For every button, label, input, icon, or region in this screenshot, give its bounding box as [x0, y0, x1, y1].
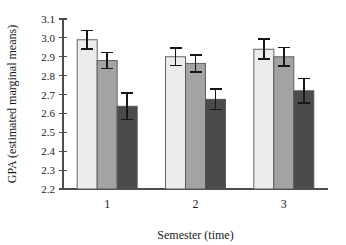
- chart-canvas: 2.22.32.42.52.62.72.82.93.03.1123Semeste…: [0, 0, 346, 245]
- x-tick-label-2: 2: [193, 197, 199, 211]
- y-tick-label-2.6: 2.6: [41, 107, 55, 119]
- x-tick-label-3: 3: [281, 197, 287, 211]
- y-tick-label-3.1: 3.1: [41, 13, 55, 25]
- x-tick-label-1: 1: [104, 197, 110, 211]
- y-tick-label-2.8: 2.8: [41, 70, 55, 82]
- bar-2-series-1: [166, 57, 186, 189]
- bar-chart: 2.22.32.42.52.62.72.82.93.03.1123Semeste…: [0, 0, 346, 245]
- y-tick-label-2.2: 2.2: [41, 183, 55, 195]
- x-axis-title: Semester (time): [157, 228, 233, 242]
- bar-2-series-2: [186, 63, 206, 189]
- bar-1-series-2: [97, 61, 117, 189]
- bar-3-series-2: [274, 57, 294, 189]
- y-tick-label-2.5: 2.5: [41, 126, 55, 138]
- y-tick-label-2.9: 2.9: [41, 51, 55, 63]
- y-tick-label-2.4: 2.4: [41, 145, 55, 157]
- bar-2-series-3: [206, 99, 226, 189]
- bar-3-series-1: [254, 49, 274, 189]
- y-tick-label-3.0: 3.0: [41, 32, 55, 44]
- bar-3-series-3: [294, 91, 314, 189]
- y-axis-title: GPA (estimated marginal means): [5, 25, 19, 183]
- y-tick-label-2.7: 2.7: [41, 89, 55, 101]
- y-tick-label-2.3: 2.3: [41, 164, 55, 176]
- bar-1-series-1: [77, 40, 97, 189]
